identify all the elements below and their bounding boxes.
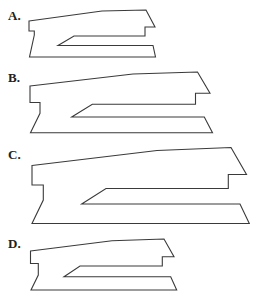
option-a-shape [29, 10, 156, 57]
option-d[interactable]: D. [8, 236, 177, 290]
option-c-label: C. [8, 147, 21, 162]
option-c[interactable]: C. [8, 147, 249, 224]
option-d-label: D. [8, 236, 21, 251]
option-a-label: A. [8, 8, 21, 23]
shape-options-figure: A. B. C. D. [0, 0, 258, 297]
option-b-label: B. [8, 70, 20, 85]
option-b[interactable]: B. [8, 70, 213, 133]
option-d-shape [31, 239, 177, 290]
option-c-shape [32, 148, 249, 224]
option-b-shape [30, 72, 213, 133]
option-a[interactable]: A. [8, 8, 156, 57]
